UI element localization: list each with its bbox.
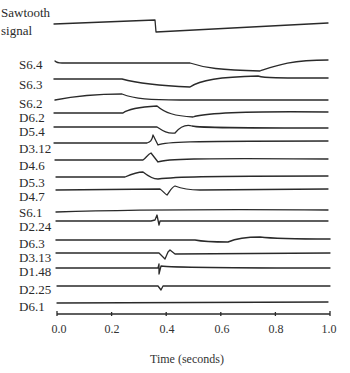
x-axis-title: Time (seconds) bbox=[150, 352, 224, 366]
label-d4-7: D4.7 bbox=[19, 189, 45, 204]
trace-d5-4 bbox=[54, 125, 328, 133]
trace-d6-1 bbox=[57, 302, 328, 303]
label-sawtooth-line2: signal bbox=[1, 23, 32, 38]
x-tick-3: 0.6 bbox=[215, 322, 230, 336]
label-s6-2: S6.2 bbox=[19, 96, 42, 111]
trace-d5-3 bbox=[56, 172, 328, 179]
row-labels: Sawtooth signal S6.4 S6.3 S6.2 D6.2 D5.4… bbox=[1, 5, 52, 314]
x-tick-5: 1.0 bbox=[322, 322, 337, 336]
x-axis: 0.0 0.2 0.4 0.6 0.8 1.0 Time (seconds) bbox=[52, 311, 337, 366]
label-d2-24: D2.24 bbox=[19, 219, 52, 234]
trace-d6-3 bbox=[56, 237, 330, 242]
label-d5-4: D5.4 bbox=[19, 124, 45, 139]
x-tick-2: 0.4 bbox=[160, 322, 175, 336]
label-d1-48: D1.48 bbox=[19, 264, 51, 279]
label-d3-13: D3.13 bbox=[19, 250, 51, 265]
label-d6-1: D6.1 bbox=[19, 299, 45, 314]
label-d6-3: D6.3 bbox=[19, 236, 45, 251]
x-tick-0: 0.0 bbox=[52, 322, 67, 336]
x-tick-1: 0.2 bbox=[105, 322, 120, 336]
trace-d3-13 bbox=[56, 250, 330, 259]
trace-s6-3 bbox=[54, 76, 328, 87]
label-sawtooth-line1: Sawtooth bbox=[1, 5, 51, 20]
trace-d6-2 bbox=[54, 106, 328, 117]
trace-s6-2 bbox=[55, 94, 328, 100]
wavelet-decomposition-chart: Sawtooth signal S6.4 S6.3 S6.2 D6.2 D5.4… bbox=[0, 0, 350, 373]
label-d6-2: D6.2 bbox=[19, 110, 45, 125]
trace-d4-6 bbox=[55, 153, 328, 162]
label-d4-6: D4.6 bbox=[19, 158, 45, 173]
trace-sawtooth bbox=[54, 20, 328, 32]
label-d3-12: D3.12 bbox=[19, 141, 51, 156]
trace-s6-4 bbox=[55, 60, 328, 71]
label-d5-3: D5.3 bbox=[19, 175, 45, 190]
trace-d4-7 bbox=[56, 186, 328, 195]
x-tick-4: 0.8 bbox=[269, 322, 284, 336]
label-d2-25: D2.25 bbox=[19, 282, 51, 297]
label-s6-1: S6.1 bbox=[19, 205, 42, 220]
label-s6-4: S6.4 bbox=[19, 57, 43, 72]
trace-d2-24 bbox=[56, 215, 328, 225]
trace-d3-12 bbox=[54, 135, 328, 145]
trace-d1-48 bbox=[56, 264, 330, 274]
trace-d2-25 bbox=[57, 286, 330, 290]
label-s6-3: S6.3 bbox=[19, 77, 42, 92]
trace-s6-1 bbox=[56, 210, 328, 212]
traces bbox=[54, 20, 330, 303]
